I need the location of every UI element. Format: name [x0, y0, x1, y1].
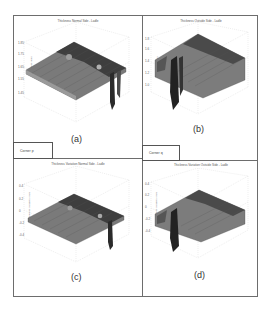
svg-text:1.75: 1.75: [18, 52, 24, 56]
surface-plot-c: 0.40.20-0.2-0.4: [14, 166, 142, 266]
svg-text:0: 0: [145, 205, 147, 209]
svg-text:-0.2: -0.2: [145, 217, 151, 221]
panel-c: Thickness Variation Normal Side - Ladle …: [14, 160, 142, 296]
panel-d-title: Thickness Variation Outside Side - Ladle: [173, 163, 229, 167]
svg-text:-0.2: -0.2: [19, 221, 25, 225]
svg-text:-0.4: -0.4: [145, 229, 151, 233]
panel-a-label: (a): [71, 134, 82, 144]
panel-c-label: (c): [71, 272, 82, 282]
svg-text:1.2: 1.2: [145, 71, 150, 75]
svg-text:1.4: 1.4: [145, 59, 150, 63]
svg-text:-0.4: -0.4: [19, 233, 25, 237]
svg-text:0.4: 0.4: [19, 184, 24, 188]
svg-text:0.2: 0.2: [145, 193, 150, 197]
corner-q-label: Corner q: [142, 145, 180, 161]
surface-plot-d: 0.40.20-0.2-0.4: [143, 168, 257, 263]
panel-b: Thickness Outside Side - Ladle Thickness…: [143, 16, 257, 158]
svg-text:1.65: 1.65: [18, 65, 24, 69]
svg-text:0.4: 0.4: [145, 182, 150, 186]
corner-p-label: Corner p: [13, 142, 53, 159]
svg-text:0.2: 0.2: [19, 197, 24, 201]
svg-text:1.8: 1.8: [145, 37, 150, 41]
panel-d-label: (d): [194, 270, 205, 280]
svg-text:1.55: 1.55: [18, 77, 24, 81]
surface-plot-b: 1.81.61.41.21.0: [143, 22, 257, 117]
surface-plot-a: 1.851.751.651.551.45: [14, 22, 142, 127]
svg-text:1.0: 1.0: [145, 83, 150, 87]
svg-text:1.6: 1.6: [145, 47, 150, 51]
svg-text:1.45: 1.45: [18, 91, 24, 95]
panel-a: Thickness Normal Side - Ladle Thickness …: [14, 16, 142, 156]
svg-text:0: 0: [19, 209, 21, 213]
panel-b-label: (b): [193, 124, 204, 134]
svg-text:1.85: 1.85: [18, 41, 24, 45]
panel-d: Thickness Variation Outside Side - Ladle…: [143, 162, 257, 296]
